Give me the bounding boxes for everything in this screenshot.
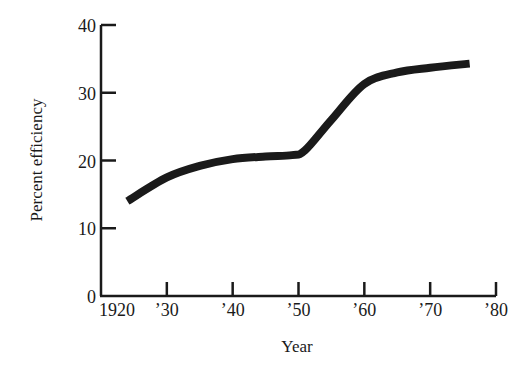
x-axis-label: Year xyxy=(281,337,313,356)
y-tick-label: 30 xyxy=(78,84,96,104)
y-tick-label: 20 xyxy=(78,152,96,172)
y-tick-label: 40 xyxy=(78,16,96,36)
x-tick-label: ’30 xyxy=(155,300,179,320)
y-tick-label: 0 xyxy=(87,287,96,307)
y-axis-label: Percent efficiency xyxy=(27,98,46,221)
chart: 010203040 1920’30’40’50’60’70’80 Year Pe… xyxy=(0,0,526,365)
x-tick-label: 1920 xyxy=(99,300,135,320)
efficiency-line xyxy=(127,64,469,202)
x-tick-label: ’50 xyxy=(287,300,311,320)
x-tick-label: ’40 xyxy=(221,300,245,320)
x-tick-label: ’70 xyxy=(418,300,442,320)
x-tick-label: ’60 xyxy=(352,300,376,320)
x-axis-ticks: 1920’30’40’50’60’70’80 xyxy=(99,282,508,320)
y-axis-ticks: 010203040 xyxy=(78,16,116,307)
y-tick-label: 10 xyxy=(78,219,96,239)
x-tick-label: ’80 xyxy=(484,300,508,320)
